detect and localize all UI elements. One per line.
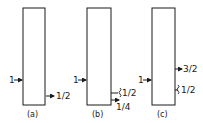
diagram-canvas: 1 1/2 (a) 1 1/2 1/4 (b) 1 3/2 1/2 (c) [0,0,203,123]
box-a [23,8,45,105]
output-label-b2: 1/4 [116,102,131,112]
panel-b: 1 1/2 1/4 (b) [73,8,136,119]
input-label-a: 1 [9,75,15,85]
box-c [152,8,175,105]
output-label-c2: 1/2 [181,85,195,95]
output-label-b1: 1/2 [122,88,136,98]
caption-c: (c) [157,110,168,119]
panel-a: 1 1/2 (a) [9,8,70,119]
caption-a: (a) [27,110,38,119]
input-label-b: 1 [73,75,79,85]
output-label-c1: 3/2 [183,64,197,74]
caption-b: (b) [92,110,103,119]
panel-c: 1 3/2 1/2 (c) [138,8,197,119]
output-label-a: 1/2 [56,91,70,101]
wavy-arrow-icon-b [119,88,121,97]
box-b [87,8,111,105]
input-label-c: 1 [138,75,144,85]
